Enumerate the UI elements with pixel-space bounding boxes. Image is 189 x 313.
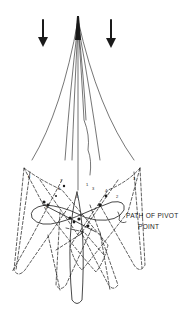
diagram-canvas: 8 7 6 5 0 1 3 4 2 3: [0, 0, 189, 313]
svg-text:6: 6: [58, 186, 61, 191]
svg-text:7: 7: [60, 178, 63, 183]
right-downward-arrow-icon: [106, 20, 116, 48]
central-canopy: [70, 192, 83, 304]
svg-text:2: 2: [116, 194, 119, 199]
svg-text:3: 3: [133, 176, 136, 181]
svg-text:3: 3: [92, 186, 95, 191]
swinging-canopy-outlines: [12, 168, 145, 290]
svg-text:8: 8: [28, 174, 31, 179]
pivot-path-label-line2: POINT: [138, 224, 159, 231]
pivot-path-label-line1: PATH OF PIVOT: [126, 213, 178, 220]
svg-text:1: 1: [86, 182, 89, 187]
left-downward-arrow-icon: [38, 20, 48, 47]
position-number-labels: 8 7 6 5 0 1 3 4 2 3: [28, 174, 136, 209]
pivot-path-diagram: 8 7 6 5 0 1 3 4 2 3 PATH OF PIVOT POINT: [0, 0, 189, 313]
suspension-lines: [32, 20, 134, 190]
